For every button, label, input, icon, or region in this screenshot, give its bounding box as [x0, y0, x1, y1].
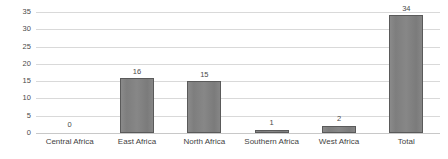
bar-slot-central-africa: 0: [36, 12, 103, 133]
bar-value-label-west-africa: 2: [337, 115, 341, 123]
y-tick-label-30: 30: [0, 25, 31, 33]
bars-layer: 0 16 15 1 2 34: [36, 12, 440, 133]
y-tick-label-25: 25: [0, 43, 31, 51]
category-label-west-africa: West Africa: [305, 136, 372, 147]
bar-slot-total: 34: [373, 12, 440, 133]
category-label-total: Total: [373, 136, 440, 147]
y-tick-label-20: 20: [0, 60, 31, 68]
y-tick-label-15: 15: [0, 77, 31, 85]
x-axis-categories: Central Africa East Africa North Africa …: [36, 136, 440, 152]
bar-value-label-southern-africa: 1: [270, 119, 274, 127]
bar-slot-north-africa: 15: [171, 12, 238, 133]
bar-north-africa[interactable]: [187, 81, 221, 133]
y-tick-label-10: 10: [0, 94, 31, 102]
bar-southern-africa[interactable]: [255, 130, 289, 133]
bar-slot-southern-africa: 1: [238, 12, 305, 133]
bar-west-africa[interactable]: [322, 126, 356, 133]
category-label-central-africa: Central Africa: [36, 136, 103, 147]
category-label-east-africa: East Africa: [103, 136, 170, 147]
bar-slot-west-africa: 2: [305, 12, 372, 133]
bar-east-africa[interactable]: [120, 78, 154, 133]
bar-value-label-central-africa: 0: [68, 121, 72, 129]
bar-chart: 35 30 25 20 15 10 5 0 0 16 15 1 2: [0, 0, 448, 159]
bar-value-label-total: 34: [402, 5, 410, 13]
bar-slot-east-africa: 16: [103, 12, 170, 133]
bar-total[interactable]: [389, 15, 423, 133]
bar-value-label-east-africa: 16: [133, 68, 141, 76]
bar-value-label-north-africa: 15: [200, 71, 208, 79]
y-tick-label-5: 5: [0, 112, 31, 120]
category-label-southern-africa: Southern Africa: [238, 136, 305, 147]
y-tick-label-35: 35: [0, 8, 31, 16]
y-tick-label-0: 0: [0, 129, 31, 137]
category-label-north-africa: North Africa: [171, 136, 238, 147]
